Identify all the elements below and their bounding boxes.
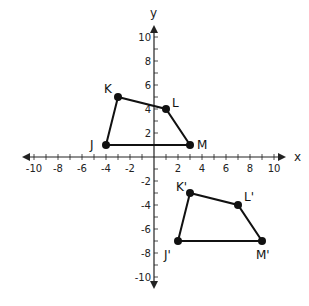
x-tick-label: -6 (77, 163, 87, 174)
vertex-label: L' (244, 190, 254, 204)
y-axis-down-arrow-icon (150, 281, 158, 289)
y-tick-label: 6 (145, 80, 151, 91)
vertex-label: K' (176, 180, 187, 194)
x-tick-label: 4 (199, 163, 205, 174)
vertex-label: K (104, 82, 113, 96)
vertex-point (102, 141, 110, 149)
x-tick-label: 2 (175, 163, 181, 174)
y-tick-label: -2 (141, 176, 151, 187)
vertex-point (174, 237, 182, 245)
vertex-label: J' (163, 248, 171, 262)
vertex-point (186, 141, 194, 149)
coordinate-plane: -10-8-6-4-2246810108642-2-4-6-8-10xyJKLM… (0, 0, 309, 306)
y-tick-label: -8 (141, 248, 151, 259)
x-tick-label: 8 (247, 163, 253, 174)
y-axis-label: y (150, 6, 157, 20)
vertex-label: J (89, 138, 94, 152)
y-tick-label: 8 (145, 56, 151, 67)
x-axis-right-arrow-icon (278, 153, 286, 161)
x-tick-label: 10 (268, 163, 281, 174)
x-tick-label: 6 (223, 163, 229, 174)
vertex-label: M' (256, 248, 270, 262)
coordinate-plane-svg: -10-8-6-4-2246810108642-2-4-6-8-10xyJKLM… (0, 0, 309, 306)
y-tick-label: -4 (141, 200, 151, 211)
y-tick-label: 2 (145, 128, 151, 139)
vertex-label: L (172, 96, 179, 110)
x-tick-label: -2 (125, 163, 135, 174)
vertex-point (234, 201, 242, 209)
vertex-point (114, 93, 122, 101)
vertex-point (162, 105, 170, 113)
y-tick-label: -10 (135, 272, 151, 283)
y-tick-label: 10 (138, 32, 151, 43)
vertex-point (258, 237, 266, 245)
y-axis-up-arrow-icon (150, 25, 158, 33)
y-tick-label: -6 (141, 224, 151, 235)
vertex-label: M (197, 138, 207, 152)
x-axis-left-arrow-icon (22, 153, 30, 161)
x-tick-label: -4 (101, 163, 111, 174)
vertex-point (186, 189, 194, 197)
x-tick-label: -8 (53, 163, 63, 174)
x-tick-label: -10 (26, 163, 42, 174)
x-axis-label: x (294, 150, 301, 164)
